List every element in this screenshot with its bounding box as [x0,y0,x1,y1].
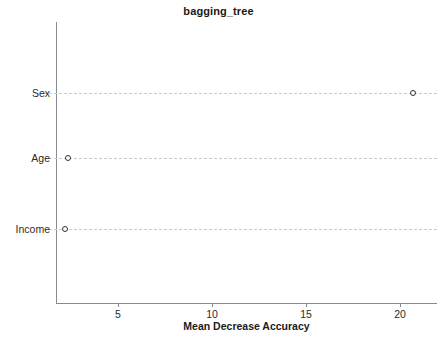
y-tick-label-sex: Sex [2,87,50,99]
x-tick-mark-20 [400,303,401,307]
y-axis-line [56,22,57,304]
x-tick-label-15: 15 [291,308,321,320]
y-axis-tick-labels: Sex Age Income [0,0,50,339]
x-tick-mark-5 [118,303,119,307]
x-axis-line [56,303,437,304]
x-tick-label-20: 20 [385,308,415,320]
x-axis-title: Mean Decrease Accuracy [56,320,437,332]
data-point-sex [410,90,416,96]
x-tick-label-5: 5 [103,308,133,320]
x-tick-label-10: 10 [197,308,227,320]
gridline-income [44,229,437,230]
y-tick-label-income: Income [2,223,50,235]
gridline-sex [44,93,437,94]
x-tick-mark-15 [306,303,307,307]
data-point-age [65,155,71,161]
variable-importance-chart: bagging_tree Sex Age Income 5 10 15 20 M… [0,0,437,339]
data-point-income [62,226,68,232]
chart-title: bagging_tree [0,5,437,17]
y-tick-label-age: Age [2,152,50,164]
gridline-age [44,158,437,159]
x-tick-mark-10 [212,303,213,307]
